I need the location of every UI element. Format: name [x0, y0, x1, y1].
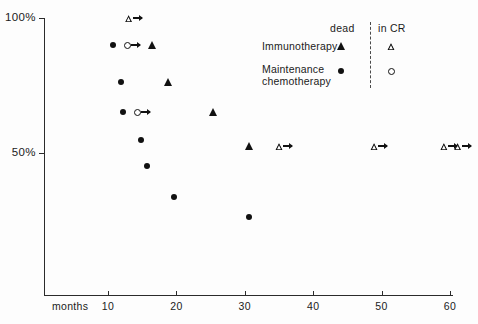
- x-axis-tick-label-10: 10: [93, 300, 123, 312]
- x-axis-tick-30: [245, 291, 246, 296]
- x-axis-tick-label-20: 20: [161, 300, 191, 312]
- filled-circle-marker: [138, 137, 144, 143]
- legend-row-label-maintenance: Maintenancechemotherapy: [262, 64, 331, 87]
- open-circle-marker: [134, 109, 141, 116]
- x-axis-tick-20: [176, 291, 177, 296]
- survival-scatter-figure: 100% 50% 102030405060 months dead in CR …: [0, 0, 478, 324]
- censored-arrow-icon: [462, 145, 471, 147]
- open-triangle-marker: [125, 14, 133, 22]
- censored-arrow-icon: [378, 145, 387, 147]
- open-triangle-marker: [275, 142, 283, 150]
- filled-triangle-marker: [164, 78, 172, 86]
- y-axis-tick-50: [39, 153, 44, 154]
- legend-row-label-immunotherapy: Immunotherapy: [262, 41, 338, 53]
- x-axis-tick-40: [313, 291, 314, 296]
- filled-circle-marker: [110, 42, 116, 48]
- open-circle-marker: [124, 42, 131, 49]
- filled-circle-marker: [144, 163, 150, 169]
- filled-circle-marker: [246, 214, 252, 220]
- y-axis-label-100: 100%: [0, 11, 36, 23]
- filled-triangle-marker: [245, 142, 253, 150]
- x-axis-tick-60: [450, 291, 451, 296]
- filled-circle-marker: [171, 194, 177, 200]
- x-axis-line: [44, 295, 453, 296]
- legend-header-in-cr: in CR: [378, 22, 406, 34]
- x-axis-tick-label-50: 50: [367, 300, 397, 312]
- x-axis-tick-label-30: 30: [230, 300, 260, 312]
- censored-arrow-icon: [283, 145, 292, 147]
- censored-arrow-icon: [141, 111, 150, 113]
- x-axis-tick-10: [108, 291, 109, 296]
- filled-triangle-marker: [209, 108, 217, 116]
- filled-circle-marker: [118, 79, 124, 85]
- filled-circle-marker: [120, 109, 126, 115]
- chart-legend: dead in CR Immunotherapy Maintenancechem…: [262, 22, 434, 90]
- x-axis-tick-label-40: 40: [298, 300, 328, 312]
- legend-maintenance-line1: Maintenance: [262, 63, 324, 75]
- legend-header-dead: dead: [330, 22, 355, 34]
- y-axis-tick-100: [39, 18, 44, 19]
- legend-divider: [370, 22, 371, 88]
- open-triangle-marker: [440, 142, 448, 150]
- legend-maintenance-line2: chemotherapy: [262, 75, 331, 87]
- censored-arrow-icon: [131, 44, 140, 46]
- x-axis-tick-50: [382, 291, 383, 296]
- censored-arrow-icon: [133, 17, 142, 19]
- x-axis-tick-label-60: 60: [435, 300, 465, 312]
- open-triangle-marker: [454, 142, 462, 150]
- open-triangle-marker: [370, 142, 378, 150]
- x-axis-title: months: [52, 300, 88, 312]
- y-axis-line: [44, 18, 45, 296]
- y-axis-label-50: 50%: [0, 146, 36, 158]
- filled-triangle-marker: [148, 41, 156, 49]
